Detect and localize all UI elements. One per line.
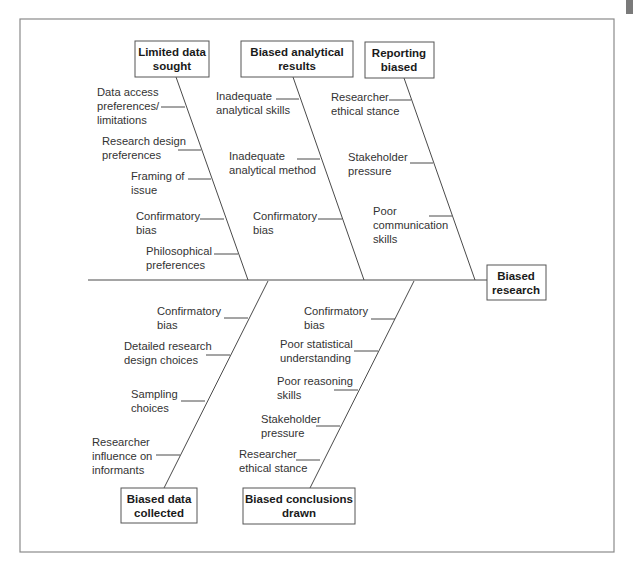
svg-text:bias: bias (253, 224, 274, 236)
svg-text:Confirmatory: Confirmatory (136, 210, 200, 222)
category-title: drawn (282, 507, 316, 519)
svg-text:Stakeholder: Stakeholder (261, 413, 321, 425)
cause-researcher-ethical-stance-2: Researcher ethical stance (239, 448, 320, 474)
category-title: sought (153, 60, 191, 72)
svg-text:design choices: design choices (124, 354, 198, 366)
bone-reporting (404, 78, 475, 280)
svg-text:communication: communication (373, 219, 448, 231)
svg-text:Confirmatory: Confirmatory (157, 305, 221, 317)
cause-philosophical-prefs: Philosophical preferences (146, 245, 238, 271)
cause-researcher-ethical-stance-1: Researcher ethical stance (331, 91, 411, 117)
cause-stakeholder-pressure-2: Stakeholder pressure (261, 413, 340, 439)
svg-text:skills: skills (373, 233, 398, 245)
cause-confirmatory-bias-3: Confirmatory bias (157, 305, 248, 331)
svg-text:Inadequate: Inadequate (229, 150, 285, 162)
svg-text:Detailed research: Detailed research (124, 340, 212, 352)
cause-poor-statistical: Poor statistical understanding (280, 338, 378, 364)
cause-inadequate-method: Inadequate analytical method (229, 150, 320, 176)
svg-text:preferences/: preferences/ (97, 100, 160, 112)
svg-text:Researcher: Researcher (239, 448, 297, 460)
fishbone-diagram: Limited data sought Data access preferen… (0, 0, 633, 563)
cause-sampling-choices: Sampling choices (131, 388, 205, 414)
svg-text:Poor reasoning: Poor reasoning (277, 375, 353, 387)
category-title: Limited data (138, 46, 206, 58)
category-biased-data-collected: Biased data collected (121, 488, 197, 523)
svg-text:Inadequate: Inadequate (216, 90, 272, 102)
svg-text:pressure: pressure (348, 165, 392, 177)
svg-text:skills: skills (277, 389, 302, 401)
svg-text:Confirmatory: Confirmatory (253, 210, 317, 222)
svg-text:preferences: preferences (146, 259, 205, 271)
svg-text:bias: bias (304, 319, 325, 331)
cause-poor-communication: Poor communication skills (373, 205, 452, 245)
svg-text:informants: informants (92, 464, 145, 476)
cause-researcher-influence: Researcher influence on informants (92, 436, 180, 476)
svg-text:preferences: preferences (102, 149, 161, 161)
effect-title: Biased (497, 270, 535, 282)
category-title: collected (134, 507, 184, 519)
category-title: Biased conclusions (245, 493, 353, 505)
svg-text:Researcher: Researcher (92, 436, 150, 448)
svg-text:Framing of: Framing of (131, 170, 185, 182)
category-title: Reporting (372, 47, 426, 59)
svg-text:analytical method: analytical method (229, 164, 316, 176)
svg-text:Data access: Data access (97, 86, 159, 98)
svg-text:Stakeholder: Stakeholder (348, 151, 408, 163)
effect-biased-research: Biased research (487, 265, 546, 300)
cause-stakeholder-pressure-1: Stakeholder pressure (348, 151, 433, 177)
cause-research-design-prefs: Research design preferences (102, 135, 201, 161)
svg-text:Sampling: Sampling (131, 388, 178, 400)
category-biased-conclusions-drawn: Biased conclusions drawn (243, 488, 355, 524)
svg-text:Poor: Poor (373, 205, 397, 217)
svg-text:Poor statistical: Poor statistical (280, 338, 353, 350)
svg-text:Researcher: Researcher (331, 91, 389, 103)
svg-text:pressure: pressure (261, 427, 305, 439)
cause-inadequate-skills: Inadequate analytical skills (216, 90, 299, 116)
svg-text:choices: choices (131, 402, 169, 414)
svg-text:Confirmatory: Confirmatory (304, 305, 368, 317)
category-biased-analytical-results: Biased analytical results (241, 41, 353, 77)
svg-text:Philosophical: Philosophical (146, 245, 212, 257)
category-title: Biased data (127, 493, 192, 505)
svg-text:Research design: Research design (102, 135, 186, 147)
svg-text:bias: bias (157, 319, 178, 331)
svg-text:influence on: influence on (92, 450, 152, 462)
svg-text:analytical skills: analytical skills (216, 104, 290, 116)
cause-confirmatory-bias-2: Confirmatory bias (253, 210, 342, 236)
cause-confirmatory-bias-1: Confirmatory bias (136, 210, 224, 236)
svg-text:ethical stance: ethical stance (239, 462, 307, 474)
category-title: biased (381, 61, 417, 73)
svg-text:ethical stance: ethical stance (331, 105, 399, 117)
effect-title: research (492, 284, 540, 296)
svg-text:limitations: limitations (97, 114, 147, 126)
cause-poor-reasoning: Poor reasoning skills (277, 375, 358, 401)
category-title: results (278, 60, 316, 72)
svg-text:issue: issue (131, 184, 157, 196)
cause-detailed-design-choices: Detailed research design choices (124, 340, 230, 366)
cause-confirmatory-bias-4: Confirmatory bias (304, 305, 395, 331)
cause-data-access: Data access preferences/ limitations (97, 86, 185, 126)
cause-framing-of-issue: Framing of issue (131, 170, 211, 196)
category-title: Biased analytical (250, 46, 343, 58)
category-reporting-biased: Reporting biased (365, 42, 434, 78)
svg-text:bias: bias (136, 224, 157, 236)
svg-text:understanding: understanding (280, 352, 351, 364)
category-limited-data-sought: Limited data sought (135, 41, 209, 77)
